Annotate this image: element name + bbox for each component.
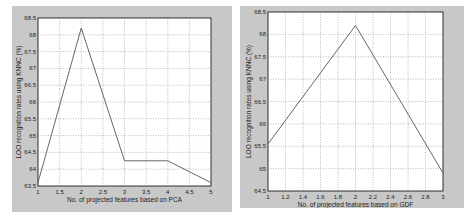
chart-pca: 11.522.533.544.5563.56464.56565.56666.56… bbox=[12, 6, 232, 212]
x-axis-label: No. of projected features based on PCA bbox=[67, 196, 183, 204]
y-tick-label: 67.5 bbox=[254, 54, 266, 60]
y-tick-label: 66 bbox=[29, 99, 36, 105]
y-tick-label: 67.5 bbox=[24, 49, 36, 55]
x-tick-label: 2.5 bbox=[99, 189, 108, 195]
x-tick-label: 2 bbox=[80, 189, 84, 195]
x-tick-label: 2 bbox=[354, 194, 358, 200]
y-tick-label: 65.5 bbox=[254, 143, 266, 149]
chart-gdf-frame: 11.21.41.61.822.22.42.62.8364.56565.5666… bbox=[240, 6, 464, 208]
x-tick-label: 1.8 bbox=[334, 194, 343, 200]
x-tick-label: 2.8 bbox=[421, 194, 430, 200]
y-tick-label: 68.5 bbox=[254, 9, 266, 15]
y-axis-label: LOO recognition rates using KNNC (%) bbox=[245, 45, 253, 158]
x-tick-label: 1 bbox=[36, 189, 40, 195]
y-tick-label: 67 bbox=[259, 76, 266, 82]
x-tick-label: 1 bbox=[266, 194, 270, 200]
y-tick-label: 64 bbox=[29, 166, 36, 172]
x-tick-label: 2.4 bbox=[386, 194, 395, 200]
x-tick-label: 3 bbox=[441, 194, 445, 200]
y-tick-label: 67 bbox=[29, 65, 36, 71]
x-axis-label: No. of projected features based on GDF bbox=[298, 201, 413, 208]
x-tick-label: 4 bbox=[166, 189, 170, 195]
y-tick-label: 68.5 bbox=[24, 15, 36, 21]
y-axis-label: LOO recognition rates using KNNC (%) bbox=[15, 45, 23, 158]
x-tick-label: 1.4 bbox=[299, 194, 308, 200]
x-tick-label: 4.5 bbox=[185, 189, 194, 195]
chart-pca-frame: 11.522.533.544.5563.56464.56565.56666.56… bbox=[12, 6, 232, 212]
y-tick-label: 63.5 bbox=[24, 183, 36, 189]
x-tick-label: 5 bbox=[209, 189, 213, 195]
y-tick-label: 64.5 bbox=[24, 149, 36, 155]
y-tick-label: 64.5 bbox=[254, 188, 266, 194]
y-tick-label: 65.5 bbox=[24, 116, 36, 122]
y-tick-label: 66 bbox=[259, 121, 266, 127]
y-tick-label: 65 bbox=[29, 133, 36, 139]
x-tick-label: 1.5 bbox=[55, 189, 64, 195]
x-tick-label: 2.6 bbox=[404, 194, 413, 200]
y-tick-label: 66.5 bbox=[24, 82, 36, 88]
x-tick-label: 1.2 bbox=[281, 194, 290, 200]
x-tick-label: 3.5 bbox=[142, 189, 151, 195]
x-tick-label: 2.2 bbox=[369, 194, 378, 200]
x-tick-label: 1.6 bbox=[316, 194, 325, 200]
x-tick-label: 3 bbox=[123, 189, 127, 195]
y-tick-label: 68 bbox=[29, 32, 36, 38]
y-tick-label: 66.5 bbox=[254, 99, 266, 105]
y-tick-label: 65 bbox=[259, 166, 266, 172]
y-tick-label: 68 bbox=[259, 31, 266, 37]
chart-gdf: 11.21.41.61.822.22.42.62.8364.56565.5666… bbox=[240, 6, 464, 208]
